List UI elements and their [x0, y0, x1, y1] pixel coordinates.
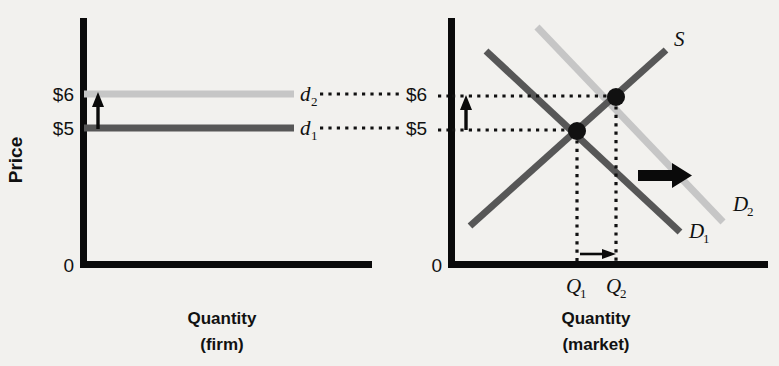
market-curve-label-D2-text: D [732, 192, 748, 216]
market-curve-label-D1-sub: 1 [703, 231, 710, 246]
market-curve-label-S-text: S [674, 27, 685, 51]
firm-curve-label-d1-sub: 1 [311, 128, 318, 143]
market-curve-label-D2-sub: 2 [747, 204, 754, 219]
firm-curve-label-d2-text: d [300, 82, 311, 106]
market-caption-line2: (market) [562, 335, 629, 354]
market-xtick-Q1-sub: 1 [580, 286, 587, 301]
market-xtick-Q2-text: Q [606, 274, 621, 298]
figure-svg: Price $6 $5 0 d 2 d 1 Quantity (firm) [0, 0, 779, 366]
firm-curve-label-d2: d 2 [300, 82, 318, 109]
market-curve-label-S: S [674, 27, 685, 51]
firm-tick-label-5: $5 [53, 118, 74, 139]
market-equilibrium-dot-2 [607, 88, 625, 106]
firm-curve-label-d1: d 1 [300, 116, 318, 143]
market-panel: S D 1 D 2 0 Q 1 Q 2 Quantity (m [431, 18, 768, 354]
firm-y-axis-title: Price [5, 137, 26, 183]
connector-tick-label-6: $6 [406, 84, 427, 105]
market-xtick-Q1-text: Q [566, 274, 581, 298]
firm-panel: Price $6 $5 0 d 2 d 1 Quantity (firm) [5, 18, 372, 354]
market-caption-line1: Quantity [562, 309, 631, 328]
market-curve-label-D2: D 2 [732, 192, 754, 219]
firm-tick-label-6: $6 [53, 84, 74, 105]
market-xtick-Q2-sub: 2 [620, 286, 627, 301]
market-xtick-Q1: Q 1 [566, 274, 587, 301]
connector-tick-label-5: $5 [406, 118, 427, 139]
market-curve-label-D1: D 1 [688, 219, 710, 246]
firm-curve-label-d1-text: d [300, 116, 311, 140]
market-curve-label-D1-text: D [688, 219, 704, 243]
firm-origin-label: 0 [63, 255, 74, 276]
market-curve-S [470, 50, 666, 226]
firm-caption-line1: Quantity [188, 309, 257, 328]
firm-curve-label-d2-sub: 2 [311, 94, 318, 109]
market-equilibrium-dot-1 [568, 122, 586, 140]
firm-price-shift-arrow [92, 92, 104, 129]
market-xtick-Q2: Q 2 [606, 274, 627, 301]
market-origin-label: 0 [431, 255, 442, 276]
economics-diagram: Price $6 $5 0 d 2 d 1 Quantity (firm) [0, 0, 779, 366]
market-quantity-shift-arrow [580, 249, 616, 259]
market-price-shift-arrow [460, 95, 472, 130]
firm-caption-line2: (firm) [200, 335, 243, 354]
